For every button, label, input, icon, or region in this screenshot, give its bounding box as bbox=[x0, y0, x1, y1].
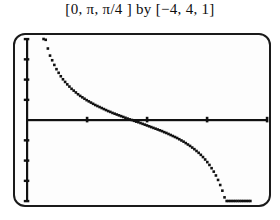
y-axis-tick bbox=[24, 38, 30, 40]
curve-point bbox=[219, 184, 222, 187]
axes-group bbox=[24, 38, 269, 202]
y-axis-tick bbox=[24, 200, 30, 202]
page-title: [0, π, π/4 ] by [−4, 4, 1] bbox=[0, 1, 280, 18]
x-axis-tick bbox=[266, 117, 269, 123]
y-axis-tick bbox=[24, 99, 30, 101]
curve-point bbox=[57, 72, 60, 75]
curve-point bbox=[47, 47, 50, 50]
curve-point bbox=[212, 170, 215, 173]
curve-point bbox=[217, 179, 220, 182]
curve-point bbox=[62, 78, 65, 81]
curve-point bbox=[68, 85, 71, 88]
curve-point bbox=[202, 156, 205, 159]
y-axis-tick bbox=[24, 58, 30, 60]
plot-area bbox=[15, 35, 269, 205]
curve-point bbox=[59, 75, 62, 78]
screenshot-root: [0, π, π/4 ] by [−4, 4, 1] bbox=[0, 0, 280, 220]
graph-plot bbox=[15, 35, 269, 205]
x-axis-tick bbox=[146, 117, 149, 123]
curve-point bbox=[49, 54, 52, 57]
curve-point bbox=[215, 174, 218, 177]
curve-point bbox=[210, 167, 213, 170]
curve-point bbox=[249, 200, 252, 203]
curve-point bbox=[208, 164, 211, 167]
x-axis-tick bbox=[206, 117, 209, 123]
curve-point bbox=[64, 81, 67, 84]
y-axis-tick bbox=[24, 180, 30, 182]
curve-point bbox=[66, 83, 69, 86]
curve-point bbox=[55, 68, 58, 71]
curve-point bbox=[44, 39, 47, 42]
curve-point bbox=[200, 154, 203, 157]
curve-point bbox=[204, 158, 207, 161]
curve-point bbox=[221, 189, 224, 192]
y-axis-tick bbox=[24, 159, 30, 161]
x-axis-tick bbox=[86, 117, 89, 123]
curve-point bbox=[51, 59, 54, 62]
y-axis-tick bbox=[24, 78, 30, 80]
y-axis-tick bbox=[24, 139, 30, 141]
curve-point bbox=[53, 64, 56, 67]
calculator-screen bbox=[13, 33, 271, 207]
curve-point bbox=[206, 161, 209, 164]
curve-point bbox=[223, 196, 226, 199]
